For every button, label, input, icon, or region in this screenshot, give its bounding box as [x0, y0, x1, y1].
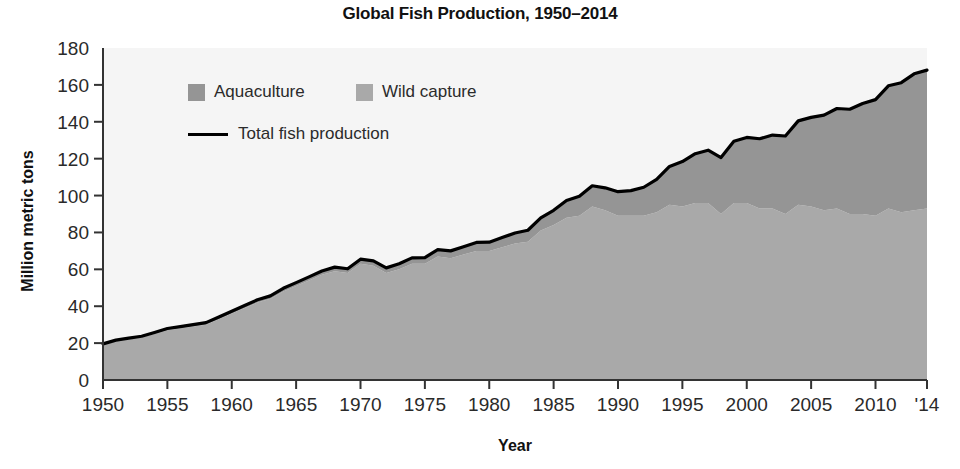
legend-item-aquaculture: Aquaculture	[188, 82, 305, 102]
x-tick-label: 1995	[661, 394, 703, 415]
total-line-swatch-icon	[188, 133, 228, 136]
x-tick-label: 2005	[790, 394, 832, 415]
legend-item-total: Total fish production	[188, 124, 389, 144]
x-tick-label: 1980	[468, 394, 510, 415]
wild-capture-swatch-icon	[356, 84, 373, 101]
legend-item-wild-capture: Wild capture	[356, 82, 476, 102]
y-tick-label: 0	[78, 370, 89, 391]
legend-label-total: Total fish production	[238, 124, 389, 144]
x-tick-label: 1970	[339, 394, 381, 415]
y-tick-label: 180	[57, 38, 89, 59]
y-tick-label: 120	[57, 149, 89, 170]
chart-legend: Aquaculture Wild capture Total fish prod…	[188, 82, 608, 148]
y-tick-label: 80	[68, 222, 89, 243]
legend-label-wild-capture: Wild capture	[382, 82, 476, 102]
x-tick-label: 1950	[82, 394, 124, 415]
y-axis-ticks: 020406080100120140160180	[57, 38, 103, 391]
x-axis-ticks: 1950195519601965197019751980198519901995…	[82, 380, 940, 415]
x-tick-label: 1990	[597, 394, 639, 415]
x-tick-label: 1985	[532, 394, 574, 415]
chart-figure: Global Fish Production, 1950–2014 Millio…	[0, 0, 960, 469]
y-tick-label: 40	[68, 296, 89, 317]
x-tick-label: 2000	[726, 394, 768, 415]
x-tick-label: '14	[915, 394, 940, 415]
x-tick-label: 1965	[275, 394, 317, 415]
x-tick-label: 1975	[404, 394, 446, 415]
y-tick-label: 160	[57, 75, 89, 96]
aquaculture-swatch-icon	[188, 84, 205, 101]
y-tick-label: 140	[57, 112, 89, 133]
y-tick-label: 100	[57, 186, 89, 207]
x-tick-label: 2010	[854, 394, 896, 415]
plot-area: 020406080100120140160180 195019551960196…	[0, 0, 960, 469]
x-tick-label: 1955	[146, 394, 188, 415]
y-tick-label: 60	[68, 259, 89, 280]
y-tick-label: 20	[68, 333, 89, 354]
legend-label-aquaculture: Aquaculture	[214, 82, 305, 102]
x-tick-label: 1960	[211, 394, 253, 415]
